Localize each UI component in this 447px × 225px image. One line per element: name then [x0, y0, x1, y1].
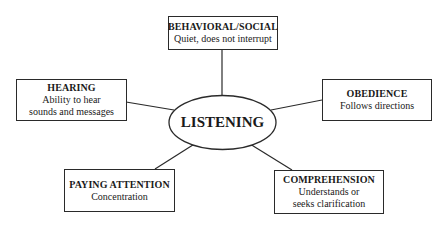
node-paying-attention: PAYING ATTENTION Concentration [64, 169, 175, 212]
node-title: HEARING [47, 82, 95, 94]
center-label: LISTENING [181, 114, 264, 131]
node-title: COMPREHENSION [283, 174, 375, 186]
node-comprehension: COMPREHENSION Understands or seeks clari… [274, 170, 384, 214]
node-desc: seeks clarification [293, 198, 365, 210]
node-obedience: OBEDIENCE Follows directions [322, 79, 432, 121]
center-node: LISTENING [169, 96, 276, 149]
node-desc: Concentration [91, 191, 148, 203]
node-desc: Quiet, does not interrupt [174, 33, 272, 45]
connector-hearing [126, 102, 174, 110]
node-desc: Ability to hear [42, 94, 100, 106]
node-hearing: HEARING Ability to hear sounds and messa… [16, 79, 127, 121]
node-title: BEHAVIORAL/SOCIAL [168, 21, 278, 33]
node-desc: sounds and messages [29, 106, 114, 118]
node-title: PAYING ATTENTION [69, 179, 170, 191]
node-desc: Follows directions [340, 100, 414, 112]
node-desc: Understands or [299, 186, 360, 198]
node-title: OBEDIENCE [347, 88, 408, 100]
connector-obedience [271, 100, 322, 110]
node-behavioral-social: BEHAVIORAL/SOCIAL Quiet, does not interr… [168, 16, 278, 50]
